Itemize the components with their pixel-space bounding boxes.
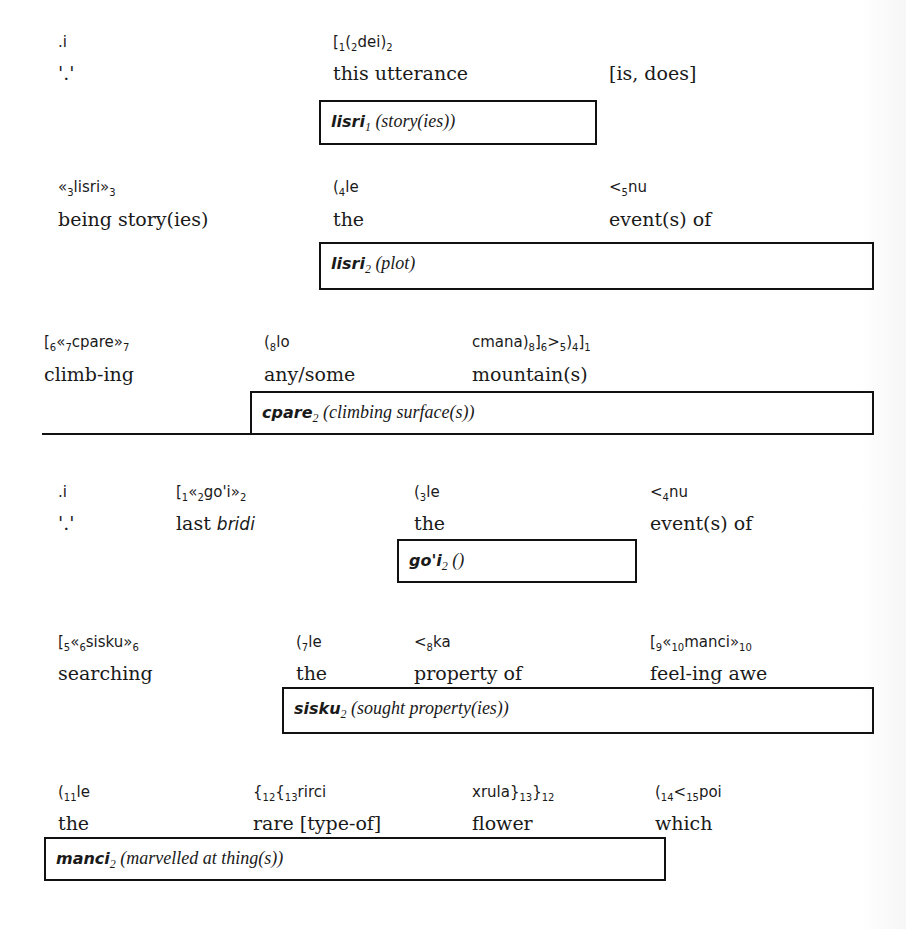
- place-structure-box: cpare2 (climbing surface(s)): [250, 391, 874, 435]
- gloss-text: mountain(s): [472, 362, 588, 386]
- lojban-word: [9«10manci»10: [650, 632, 752, 652]
- lojban-word: (8lo: [264, 332, 290, 352]
- gloss-text: the: [414, 511, 445, 535]
- place-structure-box: manci2 (marvelled at thing(s)): [44, 837, 666, 881]
- lojban-word: «3lisri»3: [58, 177, 116, 197]
- gloss-text: being story(ies): [58, 207, 208, 231]
- lojban-word: {12{13rirci: [253, 782, 326, 802]
- gloss-text: rare [type-of]: [253, 811, 381, 835]
- gloss-text: searching: [58, 661, 153, 685]
- lojban-word: (4le: [333, 177, 359, 197]
- gloss-text: event(s) of: [650, 511, 752, 535]
- lojban-word: [1«2go'i»2: [176, 482, 246, 502]
- interlinear-gloss-page: .i [1(2dei)2 '.' this utterance [is, doe…: [0, 0, 906, 929]
- gloss-text: '.': [58, 511, 75, 535]
- section-divider: [42, 433, 873, 435]
- place-structure-box: lisri1 (story(ies)): [319, 100, 597, 145]
- lojban-word: .i: [58, 482, 67, 502]
- gloss-text: feel-ing awe: [650, 661, 767, 685]
- lojban-word: <8ka: [414, 632, 451, 652]
- lojban-word: [1(2dei)2: [333, 32, 393, 52]
- gloss-text: the: [333, 207, 364, 231]
- lojban-word: .i: [58, 32, 67, 52]
- gloss-text: any/some: [264, 362, 355, 386]
- lojban-word: [5«6sisku»6: [58, 632, 139, 652]
- lojban-word: xrula}13}12: [472, 782, 554, 802]
- gloss-text: this utterance: [333, 61, 468, 85]
- gloss-text: event(s) of: [609, 207, 711, 231]
- lojban-word: (7le: [296, 632, 322, 652]
- gloss-text: the: [296, 661, 327, 685]
- gloss-text: the: [58, 811, 89, 835]
- gloss-text: [is, does]: [609, 61, 696, 85]
- lojban-word: <5nu: [609, 177, 647, 197]
- lojban-word: (3le: [414, 482, 440, 502]
- lojban-word: (11le: [58, 782, 90, 802]
- place-structure-box: sisku2 (sought property(ies)): [282, 687, 874, 734]
- gloss-text: last bridi: [176, 511, 255, 536]
- lojban-word: [6«7cpare»7: [44, 332, 129, 352]
- gloss-text: flower: [472, 811, 533, 835]
- lojban-word: (14<15poi: [655, 782, 722, 802]
- lojban-word: cmana)8]6>5)4]1: [472, 332, 591, 352]
- gloss-text: property of: [414, 661, 522, 685]
- gloss-text: climb-ing: [44, 362, 134, 386]
- lojban-word: <4nu: [650, 482, 688, 502]
- gloss-text: '.': [58, 61, 75, 85]
- gloss-text: which: [655, 811, 712, 835]
- place-structure-box: go'i2 (): [397, 539, 637, 583]
- place-structure-box: lisri2 (plot): [319, 242, 874, 290]
